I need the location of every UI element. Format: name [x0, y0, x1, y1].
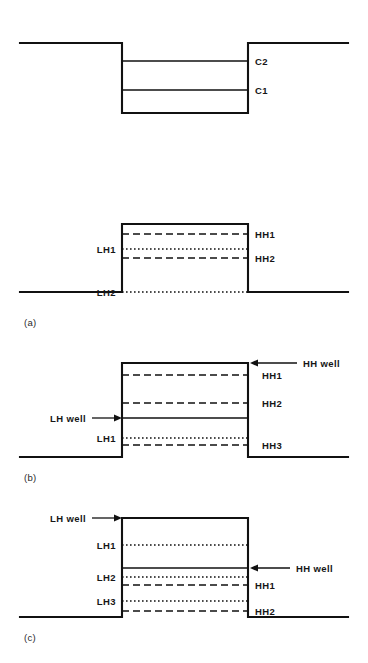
level-label-c1: C1 — [255, 85, 268, 96]
level-label-hh1-b: HH1 — [262, 370, 283, 381]
lh-well-arrow-head-c — [114, 514, 122, 521]
lh-well-label-c: LH well — [50, 513, 86, 524]
hh-well-label-b: HH well — [303, 358, 340, 369]
panel-top: C2 C1 — [20, 43, 348, 113]
panel-c: LH well LH1 HH well LH2 HH1 LH3 H — [20, 513, 348, 644]
hh-well-label-c: HH well — [296, 563, 333, 574]
lh-well-arrow-head-b — [114, 414, 122, 421]
panel-tag-b: (b) — [24, 472, 37, 483]
level-label-lh1: LH1 — [97, 244, 116, 255]
level-label-lh2: LH2 — [97, 287, 116, 298]
top-well-outline — [20, 43, 348, 113]
hh-well-arrow-c: HH well — [250, 563, 333, 574]
hh-well-arrow-head-c — [250, 564, 258, 571]
level-label-hh2-b: HH2 — [262, 398, 282, 409]
hh-well-arrow-b: HH well — [250, 358, 340, 369]
level-label-hh1-c: HH1 — [255, 580, 276, 591]
level-label-lh1-b: LH1 — [97, 433, 116, 444]
band-diagram-figure: C2 C1 HH1 LH1 HH2 LH2 (a) — [0, 0, 368, 663]
level-label-lh1-c: LH1 — [97, 540, 116, 551]
panel-a: HH1 LH1 HH2 LH2 (a) — [20, 224, 348, 328]
panel-tag-c: (c) — [24, 632, 36, 643]
level-label-hh1: HH1 — [255, 229, 276, 240]
level-label-c2: C2 — [255, 56, 268, 67]
level-label-lh2-c: LH2 — [97, 572, 116, 583]
lh-well-arrow-b: LH well — [50, 413, 122, 424]
level-label-hh2-c: HH2 — [255, 606, 275, 617]
band-diagram-svg: C2 C1 HH1 LH1 HH2 LH2 (a) — [0, 0, 368, 663]
lh-well-label-b: LH well — [50, 413, 86, 424]
lh-well-arrow-c: LH well — [50, 513, 122, 524]
level-label-hh3-b: HH3 — [262, 440, 282, 451]
panel-b: HH well HH1 HH2 LH well LH1 HH3 (b) — [20, 358, 348, 484]
panel-tag-a: (a) — [24, 317, 37, 328]
panel-b-well-outline — [20, 363, 348, 457]
hh-well-arrow-head-b — [250, 359, 258, 366]
level-label-hh2: HH2 — [255, 253, 275, 264]
level-label-lh3-c: LH3 — [97, 596, 116, 607]
